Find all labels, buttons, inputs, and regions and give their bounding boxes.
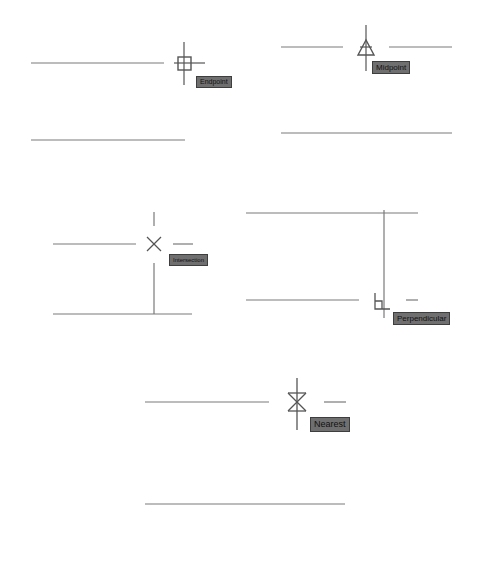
endpoint-tooltip: Endpoint	[196, 76, 232, 88]
midpoint-tooltip: Midpoint	[372, 61, 410, 74]
midpoint-panel	[281, 25, 452, 133]
intersection-marker-icon	[147, 237, 161, 251]
intersection-tooltip: Intersection	[169, 254, 208, 266]
perpendicular-tooltip: Perpendicular	[393, 312, 450, 325]
osnap-diagram-canvas	[0, 0, 478, 574]
endpoint-panel	[31, 42, 205, 140]
perpendicular-marker-icon	[375, 293, 390, 309]
nearest-marker-icon	[288, 378, 306, 430]
nearest-panel	[145, 378, 346, 504]
nearest-tooltip: Nearest	[310, 417, 350, 432]
perpendicular-panel	[246, 210, 418, 318]
